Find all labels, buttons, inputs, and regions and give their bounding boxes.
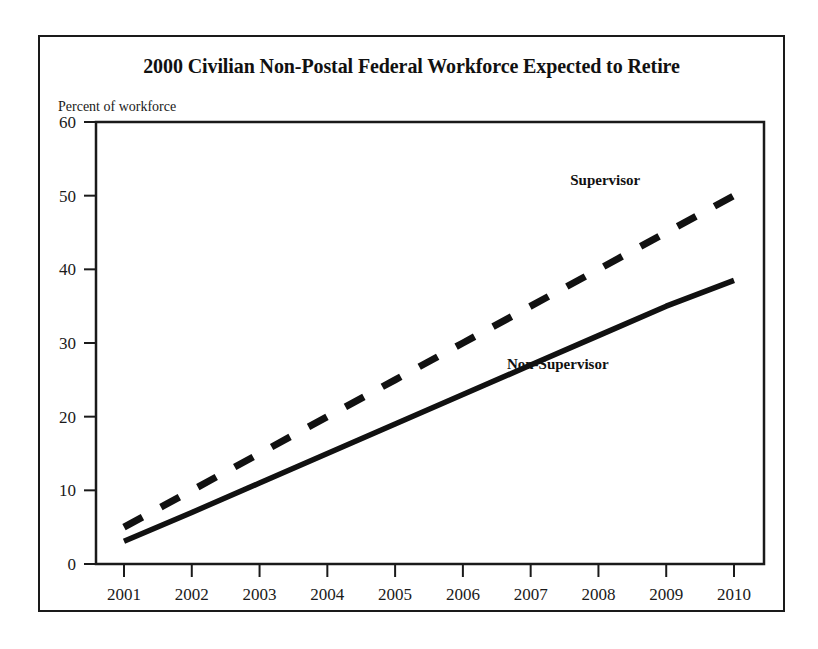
- x-tick-label: 2008: [581, 585, 615, 604]
- y-tick-label: 60: [59, 113, 76, 132]
- y-tick-label: 40: [59, 260, 76, 279]
- x-tick-label: 2002: [175, 585, 209, 604]
- y-tick-label: 50: [59, 187, 76, 206]
- x-tick-label: 2007: [514, 585, 549, 604]
- x-tick-label: 2003: [243, 585, 277, 604]
- x-tick-label: 2004: [310, 585, 345, 604]
- x-tick-label: 2006: [446, 585, 480, 604]
- series-annotations: SupervisorNon-Supervisor: [507, 172, 641, 372]
- y-axis-ticks: [84, 122, 96, 564]
- x-axis-tick-labels: 2001200220032004200520062007200820092010: [107, 585, 751, 604]
- y-tick-label: 20: [59, 408, 76, 427]
- x-axis-ticks: [124, 564, 734, 577]
- y-tick-label: 10: [59, 481, 76, 500]
- series-annotation: Supervisor: [570, 172, 640, 188]
- series-lines: [124, 196, 734, 541]
- plot-frame: [96, 122, 764, 564]
- y-tick-label: 30: [59, 334, 76, 353]
- x-tick-label: 2005: [378, 585, 412, 604]
- series-annotation: Non-Supervisor: [507, 356, 609, 372]
- y-tick-label: 0: [68, 555, 77, 574]
- series-line-supervisor: [124, 196, 734, 528]
- y-axis-tick-labels: 0102030405060: [59, 113, 76, 574]
- plot-area: 0102030405060 20012002200320042005200620…: [0, 0, 818, 649]
- series-line-non-supervisor: [124, 280, 734, 541]
- figure-container: 2000 Civilian Non-Postal Federal Workfor…: [0, 0, 818, 649]
- x-tick-label: 2009: [649, 585, 683, 604]
- x-tick-label: 2001: [107, 585, 141, 604]
- x-tick-label: 2010: [717, 585, 751, 604]
